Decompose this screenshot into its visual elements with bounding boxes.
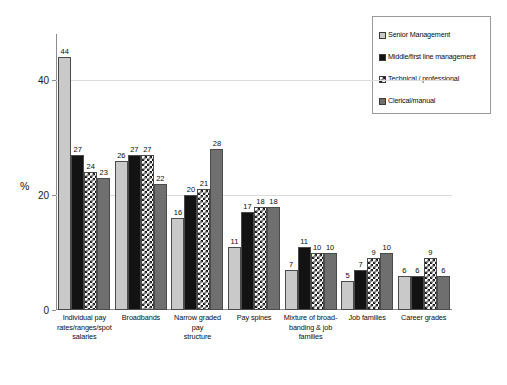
bar[interactable] <box>298 247 311 310</box>
bar-slot: 10 <box>311 34 324 310</box>
x-axis-tick-label: Individual payrates/ranges/spotsalaries <box>56 313 113 342</box>
bar-value-label: 5 <box>346 271 350 280</box>
bar-value-label: 7 <box>289 260 293 269</box>
bar[interactable] <box>84 172 97 310</box>
bar-value-label: 27 <box>143 145 151 154</box>
bar-value-label: 18 <box>256 197 264 206</box>
bar-slot: 22 <box>154 34 167 310</box>
bar-value-label: 17 <box>243 202 251 211</box>
bar-slot: 11 <box>298 34 311 310</box>
bar[interactable] <box>71 155 84 310</box>
bar-groups: 4427242326272722162021281117181871110105… <box>56 34 452 310</box>
bar[interactable] <box>324 253 337 311</box>
bar-slot: 7 <box>285 34 298 310</box>
bar-slot: 11 <box>228 34 241 310</box>
bar-group-bars: 44272423 <box>56 34 113 310</box>
bar-slot: 28 <box>210 34 223 310</box>
bar[interactable] <box>228 247 241 310</box>
bar-group-bars: 26272722 <box>113 34 170 310</box>
bar[interactable] <box>311 253 324 311</box>
bar-group: 7111010 <box>282 34 339 310</box>
bar[interactable] <box>354 270 367 310</box>
bar-value-label: 10 <box>326 243 334 252</box>
bar-value-label: 16 <box>174 208 182 217</box>
bar-slot: 23 <box>97 34 110 310</box>
bar-slot: 17 <box>241 34 254 310</box>
bar-group: 26272722 <box>113 34 170 310</box>
bar-slot: 10 <box>380 34 393 310</box>
bar-value-label: 18 <box>269 197 277 206</box>
bar[interactable] <box>128 155 141 310</box>
bar-value-label: 6 <box>415 266 419 275</box>
bar[interactable] <box>171 218 184 310</box>
bar-slot: 5 <box>341 34 354 310</box>
bar-slot: 18 <box>254 34 267 310</box>
bar-slot: 16 <box>171 34 184 310</box>
y-axis-label: % <box>20 180 29 192</box>
bar-group-bars: 11171818 <box>226 34 283 310</box>
y-axis-tick-label: 20 <box>38 190 49 201</box>
bar-slot: 26 <box>115 34 128 310</box>
bar-slot: 24 <box>84 34 97 310</box>
bar-group: 57910 <box>339 34 396 310</box>
bar-value-label: 27 <box>74 145 82 154</box>
plot-area: 02040 4427242326272722162021281117181871… <box>56 34 452 310</box>
bar-slot: 9 <box>424 34 437 310</box>
bar-slot: 44 <box>58 34 71 310</box>
x-axis-tick-label: Career grades <box>395 313 452 342</box>
bar[interactable] <box>141 155 154 310</box>
bar-slot: 27 <box>141 34 154 310</box>
x-axis-tick-label: Job families <box>339 313 396 342</box>
bar-value-label: 6 <box>402 266 406 275</box>
y-axis-tick-label: 40 <box>38 75 49 86</box>
bar[interactable] <box>285 270 298 310</box>
bar[interactable] <box>97 178 110 310</box>
x-axis-tick-label: Mixture of broad-banding & jobfamilies <box>282 313 339 342</box>
x-axis-tick-label: Narrow graded paystructure <box>169 313 226 342</box>
bar-slot: 6 <box>411 34 424 310</box>
bar[interactable] <box>424 258 437 310</box>
y-axis-tick-label: 0 <box>43 305 49 316</box>
bar-value-label: 20 <box>187 185 195 194</box>
bar-group-bars: 16202128 <box>169 34 226 310</box>
bar-slot: 21 <box>197 34 210 310</box>
bar-group: 11171818 <box>226 34 283 310</box>
bar[interactable] <box>241 212 254 310</box>
bar-value-label: 11 <box>300 237 308 246</box>
bar-slot: 6 <box>437 34 450 310</box>
bar-value-label: 44 <box>61 47 69 56</box>
bar-value-label: 10 <box>313 243 321 252</box>
bar-value-label: 10 <box>383 243 391 252</box>
bar-slot: 9 <box>367 34 380 310</box>
bar-group: 44272423 <box>56 34 113 310</box>
bar-slot: 20 <box>184 34 197 310</box>
bar[interactable] <box>154 184 167 311</box>
bar-slot: 27 <box>71 34 84 310</box>
x-axis-tick-labels: Individual payrates/ranges/spotsalariesB… <box>56 313 452 342</box>
bar-value-label: 21 <box>200 179 208 188</box>
bar[interactable] <box>398 276 411 311</box>
bar[interactable] <box>115 161 128 311</box>
y-axis-tick <box>52 310 56 311</box>
bar-value-label: 9 <box>428 248 432 257</box>
bar[interactable] <box>380 253 393 311</box>
x-axis-tick-label: Broadbands <box>113 313 170 342</box>
x-axis-tick-label: Pay spines <box>226 313 283 342</box>
bar[interactable] <box>254 207 267 311</box>
bar-value-label: 26 <box>117 151 125 160</box>
bar-value-label: 24 <box>87 162 95 171</box>
bar[interactable] <box>267 207 280 311</box>
bar[interactable] <box>58 57 71 310</box>
bar-value-label: 23 <box>100 168 108 177</box>
bar-group: 6696 <box>395 34 452 310</box>
bar-slot: 18 <box>267 34 280 310</box>
bar[interactable] <box>184 195 197 310</box>
bar[interactable] <box>341 281 354 310</box>
bar[interactable] <box>367 258 380 310</box>
bar-value-label: 27 <box>130 145 138 154</box>
bar[interactable] <box>437 276 450 311</box>
bar[interactable] <box>210 149 223 310</box>
bar-group-bars: 57910 <box>339 34 396 310</box>
bar[interactable] <box>197 189 210 310</box>
bar[interactable] <box>411 276 424 311</box>
